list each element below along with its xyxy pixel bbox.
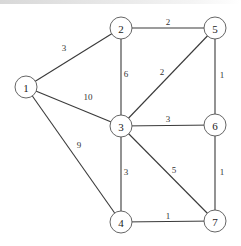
edge-weight-5-6: 1	[220, 70, 225, 80]
edge-weight-1-2: 3	[62, 43, 67, 53]
edge-weight-2-3: 6	[124, 69, 129, 79]
node-label: 6	[212, 120, 218, 132]
edge-weight-3-5: 2	[160, 67, 165, 77]
node-label: 4	[118, 217, 124, 229]
weighted-graph: 3109262133511 1234567	[0, 0, 241, 246]
node-label: 1	[23, 82, 29, 94]
node-2: 2	[110, 17, 132, 39]
edge-weight-3-4: 3	[124, 167, 129, 177]
edge-weight-2-5: 2	[166, 17, 171, 27]
edge-3-5	[121, 28, 215, 126]
edge-3-7	[121, 126, 215, 221]
edge-1-2	[26, 28, 121, 87]
node-label: 2	[118, 23, 124, 35]
edge-4-7	[121, 221, 215, 222]
edge-weight-1-3: 10	[84, 92, 94, 102]
node-5: 5	[204, 17, 226, 39]
node-label: 7	[212, 216, 218, 228]
edge-weight-3-7: 5	[172, 165, 177, 175]
edge-weight-3-6: 3	[166, 114, 171, 124]
edge-weight-4-7: 1	[166, 211, 171, 221]
node-7: 7	[204, 210, 226, 232]
edge-1-4	[26, 87, 121, 222]
node-label: 3	[118, 121, 124, 133]
node-6: 6	[204, 114, 226, 136]
node-4: 4	[110, 211, 132, 233]
edge-weight-6-7: 1	[220, 167, 225, 177]
edge-3-6	[121, 125, 215, 126]
node-3: 3	[110, 115, 132, 137]
edge-labels-layer: 3109262133511	[62, 17, 225, 221]
edge-weight-1-4: 9	[77, 140, 82, 150]
node-1: 1	[15, 76, 37, 98]
node-label: 5	[212, 23, 218, 35]
